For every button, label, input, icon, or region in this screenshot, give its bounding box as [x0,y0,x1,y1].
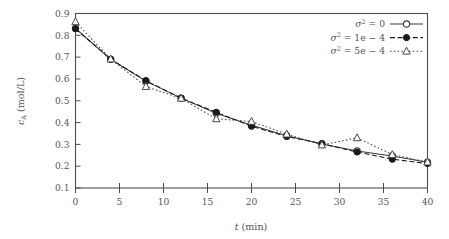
x-axis-title: t (min) [235,221,268,232]
data-point-filled-circle [403,35,409,41]
concentration-decay-chart: 0.10.20.30.40.50.60.70.80.9 051015202530… [0,0,449,239]
x-axis-tick-labels: 0510152025303540 [73,196,434,207]
legend-label-0: σ2 = 0 [355,18,385,29]
y-tick-label: 0.5 [55,95,70,106]
y-tick-label: 0.4 [55,117,70,128]
data-point-open-circle [403,21,409,27]
y-axis-title: cA (mol/L) [15,77,28,125]
y-tick-label: 0.8 [55,30,70,41]
x-tick-label: 0 [73,196,79,207]
x-tick-label: 30 [334,196,346,207]
data-point-filled-circle [72,26,78,32]
x-tick-label: 25 [290,196,302,207]
data-point-filled-circle [354,149,360,155]
x-tick-label: 35 [378,196,390,207]
svg-text:t (min): t (min) [235,221,268,232]
x-tick-label: 10 [158,196,170,207]
y-tick-label: 0.9 [55,8,70,19]
y-tick-label: 0.3 [55,139,70,150]
x-tick-label: 20 [246,196,258,207]
y-tick-label: 0.7 [55,51,70,62]
x-tick-label: 40 [422,196,434,207]
x-tick-label: 5 [117,196,123,207]
y-axis-tick-labels: 0.10.20.30.40.50.60.70.80.9 [55,8,70,194]
y-tick-label: 0.6 [55,73,70,84]
chart-figure: 0.10.20.30.40.50.60.70.80.9 051015202530… [0,0,449,239]
y-tick-label: 0.1 [55,182,70,193]
x-tick-label: 15 [202,196,214,207]
y-tick-label: 0.2 [55,160,70,171]
svg-text:cA (mol/L): cA (mol/L) [15,77,28,125]
